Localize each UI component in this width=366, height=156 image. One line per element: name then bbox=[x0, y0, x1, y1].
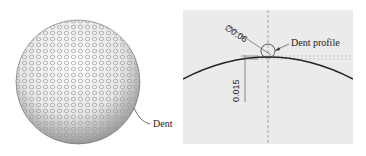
golf-ball-panel: Dent bbox=[0, 0, 183, 156]
dent-profile-sketch-panel: ∅0.06 Dent profile 0.015 bbox=[183, 10, 353, 144]
dent-profile-label: Dent profile bbox=[291, 37, 340, 48]
golf-ball-illustration bbox=[0, 0, 183, 156]
dent-leader-line bbox=[134, 108, 150, 124]
dent-label: Dent bbox=[153, 118, 172, 129]
sketch-drawing bbox=[183, 10, 353, 144]
depth-dimension-label: 0.015 bbox=[231, 79, 241, 102]
